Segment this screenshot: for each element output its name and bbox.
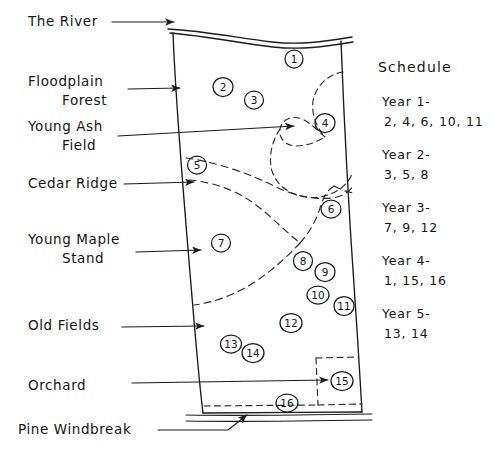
map-unit-4[interactable]: 4 (315, 114, 335, 133)
map-unit-2[interactable]: 2 (213, 78, 233, 97)
schedule-year-label-4: Year 4- (381, 253, 431, 268)
map-label-young-ash-line-1: Field (62, 137, 96, 153)
map-unit-9[interactable]: 9 (315, 263, 335, 282)
map-unit-7[interactable]: 7 (212, 234, 231, 252)
schedule-year-label-2: Year 2- (381, 147, 431, 162)
map-label-pine-windbreak: Pine Windbreak (18, 421, 131, 437)
unit-number-5: 5 (194, 159, 201, 171)
map-unit-10[interactable]: 10 (307, 286, 329, 304)
schedule-panel: ScheduleYear 1-2, 4, 6, 10, 11Year 2-3, … (378, 59, 483, 341)
woodlot-map-diagram: The RiverFloodplainForestYoung AshFieldC… (0, 0, 494, 459)
schedule-entry-2: Year 2-3, 5, 8 (381, 147, 431, 182)
map-label-young-maple: Young MapleStand (27, 231, 120, 266)
map-unit-5[interactable]: 5 (188, 156, 207, 174)
map-label-young-ash: Young AshField (27, 118, 103, 153)
map-unit-6[interactable]: 6 (321, 200, 341, 218)
map-label-river: The River (27, 13, 98, 29)
leader-pine-windbreak (158, 415, 247, 430)
unit-number-16: 16 (280, 397, 294, 409)
map-unit-11[interactable]: 11 (334, 297, 354, 316)
unit-number-15: 15 (335, 375, 348, 387)
map-unit-3[interactable]: 3 (245, 91, 264, 109)
map-label-floodplain: FloodplainForest (28, 73, 107, 108)
unit-number-2: 2 (220, 81, 227, 93)
schedule-title: Schedule (378, 59, 452, 75)
map-label-young-ash-line-0: Young Ash (27, 118, 103, 134)
map-label-floodplain-line-1: Forest (62, 92, 107, 108)
map-label-cedar-ridge-line-0: Cedar Ridge (28, 175, 118, 191)
unit-number-13: 13 (224, 338, 237, 350)
leader-young-maple (136, 250, 201, 252)
map-label-layer: The RiverFloodplainForestYoung AshFieldC… (18, 13, 131, 437)
map-unit-14[interactable]: 14 (242, 344, 264, 363)
map-label-cedar-ridge: Cedar Ridge (28, 175, 118, 191)
unit-number-8: 8 (300, 255, 307, 267)
river-line (168, 29, 353, 48)
pine-windbreak-band (186, 414, 372, 421)
map-unit-12[interactable]: 12 (280, 314, 302, 333)
map-unit-13[interactable]: 13 (221, 335, 242, 353)
schedule-year-label-5: Year 5- (381, 306, 431, 321)
map-unit-16[interactable]: 16 (276, 394, 298, 412)
map-label-orchard-line-0: Orchard (28, 377, 86, 393)
unit-number-7: 7 (218, 237, 225, 249)
map-label-floodplain-line-0: Floodplain (28, 73, 104, 89)
map-unit-1[interactable]: 1 (285, 50, 303, 68)
schedule-entry-1: Year 1-2, 4, 6, 10, 11 (381, 94, 483, 129)
map-label-pine-windbreak-line-0: Pine Windbreak (18, 421, 131, 437)
schedule-units-label-4: 1, 15, 16 (384, 273, 447, 288)
leader-young-ash (118, 126, 294, 136)
unit-number-1: 1 (291, 53, 298, 65)
schedule-entry-3: Year 3-7, 9, 12 (381, 200, 438, 235)
map-label-old-fields-line-0: Old Fields (28, 317, 99, 333)
schedule-units-label-5: 13, 14 (384, 326, 429, 341)
schedule-year-label-1: Year 1- (381, 94, 431, 109)
stand-boundaries (186, 72, 356, 305)
schedule-year-label-3: Year 3- (381, 200, 431, 215)
map-label-young-maple-line-1: Stand (62, 250, 104, 266)
schedule-entry-5: Year 5-13, 14 (381, 306, 431, 341)
map-unit-8[interactable]: 8 (294, 252, 313, 271)
unit-number-12: 12 (284, 317, 297, 329)
parcel-boundary (173, 33, 362, 413)
unit-number-6: 6 (328, 203, 335, 215)
map-label-river-line-0: The River (27, 13, 98, 29)
map-label-orchard: Orchard (28, 377, 86, 393)
map-unit-15[interactable]: 15 (331, 372, 353, 391)
schedule-entry-4: Year 4-1, 15, 16 (381, 253, 447, 288)
unit-number-14: 14 (246, 347, 260, 359)
leader-old-fields (122, 326, 204, 327)
unit-number-9: 9 (322, 266, 329, 278)
schedule-units-label-1: 2, 4, 6, 10, 11 (384, 114, 483, 129)
unit-number-11: 11 (337, 300, 350, 312)
map-label-old-fields: Old Fields (28, 317, 99, 333)
leader-cedar-ridge (124, 182, 194, 184)
unit-number-10: 10 (311, 289, 324, 301)
leader-orchard (132, 380, 328, 383)
schedule-units-label-2: 3, 5, 8 (384, 167, 429, 182)
unit-number-4: 4 (322, 117, 329, 129)
unit-number-3: 3 (251, 94, 258, 106)
map-label-young-maple-line-0: Young Maple (27, 231, 120, 247)
schedule-units-label-3: 7, 9, 12 (384, 220, 438, 235)
leader-floodplain (128, 88, 180, 89)
